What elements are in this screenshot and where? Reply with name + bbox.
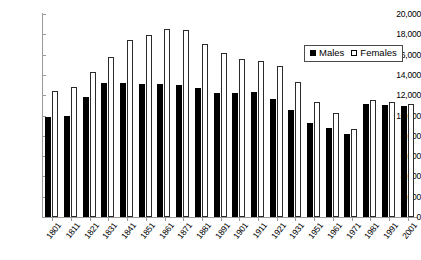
x-axis-tick-mark xyxy=(108,217,109,221)
x-axis-tick-mark xyxy=(146,217,147,221)
x-axis-tick-label: 1801 xyxy=(45,221,63,241)
x-axis-tick-mark xyxy=(183,217,184,221)
x-axis-tick-label: 1961 xyxy=(326,221,344,241)
bar-chart: 02,0004,0006,0008,00010,00012,00014,0001… xyxy=(0,0,421,260)
x-axis-tick-mark xyxy=(90,217,91,221)
x-axis-tick-label: 2001 xyxy=(400,221,418,241)
x-axis-tick-mark xyxy=(221,217,222,221)
x-axis-tick-mark xyxy=(52,217,53,221)
chart-legend: Males Females xyxy=(304,45,403,62)
x-axis-tick-mark xyxy=(314,217,315,221)
legend-label-males: Males xyxy=(319,48,344,58)
x-axis-tick-mark xyxy=(239,217,240,221)
x-axis-tick-label: 1851 xyxy=(139,221,157,241)
x-axis: 1801181118211831184118511861187118811891… xyxy=(0,0,421,260)
x-axis-tick-label: 1931 xyxy=(288,221,306,241)
x-axis-tick-mark xyxy=(408,217,409,221)
x-axis-tick-label: 1861 xyxy=(157,221,175,241)
legend-label-females: Females xyxy=(360,48,396,58)
x-axis-tick-mark xyxy=(295,217,296,221)
x-axis-tick-label: 1951 xyxy=(307,221,325,241)
x-axis-tick-label: 1901 xyxy=(232,221,250,241)
x-axis-tick-mark xyxy=(333,217,334,221)
x-axis-tick-label: 1911 xyxy=(251,221,269,240)
x-axis-tick-label: 1981 xyxy=(363,221,381,241)
legend-swatch-females-icon xyxy=(351,50,357,56)
x-axis-tick-label: 1921 xyxy=(270,221,288,241)
x-axis-tick-label: 1891 xyxy=(213,221,231,241)
x-axis-tick-mark xyxy=(127,217,128,221)
x-axis-tick-label: 1881 xyxy=(195,221,213,241)
legend-item-males: Males xyxy=(310,48,344,58)
x-axis-tick-mark xyxy=(202,217,203,221)
x-axis-tick-label: 1871 xyxy=(176,221,194,241)
legend-swatch-males-icon xyxy=(310,50,316,56)
x-axis-tick-mark xyxy=(389,217,390,221)
x-axis-tick-mark xyxy=(352,217,353,221)
x-axis-tick-label: 1991 xyxy=(382,221,400,241)
x-axis-tick-label: 1971 xyxy=(344,221,362,241)
x-axis-tick-mark xyxy=(277,217,278,221)
x-axis-tick-mark xyxy=(71,217,72,221)
x-axis-tick-label: 1811 xyxy=(64,221,82,240)
legend-item-females: Females xyxy=(351,48,396,58)
x-axis-tick-label: 1831 xyxy=(101,221,119,241)
x-axis-tick-mark xyxy=(370,217,371,221)
x-axis-tick-label: 1841 xyxy=(120,221,138,241)
x-axis-tick-mark xyxy=(258,217,259,221)
x-axis-tick-mark xyxy=(165,217,166,221)
x-axis-tick-label: 1821 xyxy=(83,221,101,241)
